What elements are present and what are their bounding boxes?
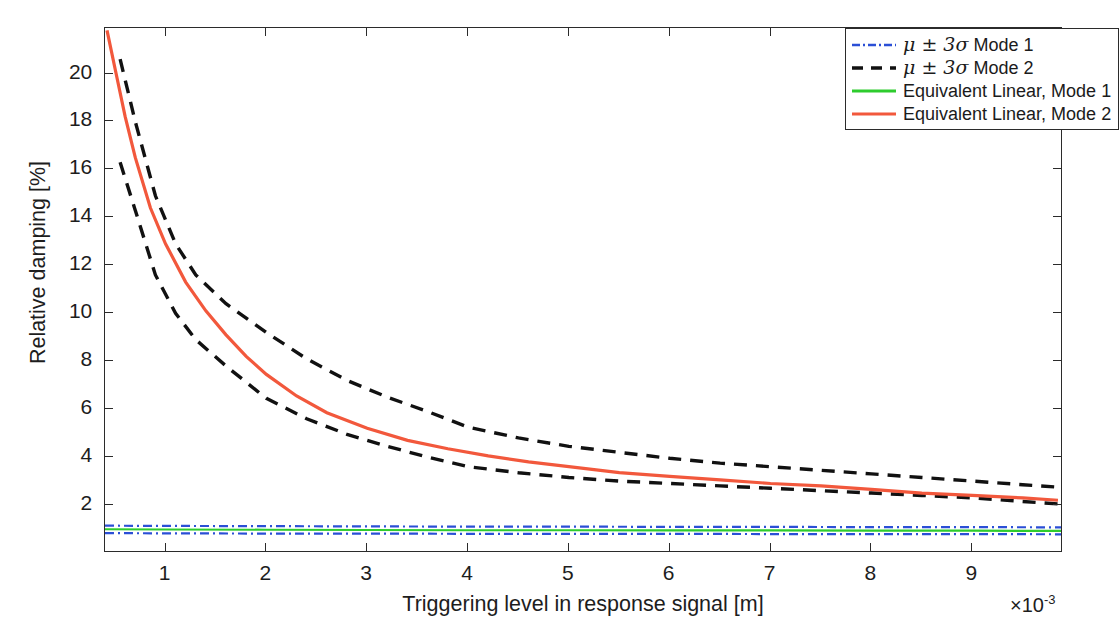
y-axis-tick — [1053, 312, 1062, 313]
x-axis-tick — [669, 543, 670, 552]
x-axis-tick-top — [467, 27, 468, 36]
x-tick-label: 3 — [346, 561, 386, 585]
x-axis-exponent: ×10-3 — [1010, 592, 1056, 617]
y-axis-tick — [1053, 168, 1062, 169]
x-tick-label: 1 — [145, 561, 185, 585]
y-axis-tick — [1053, 216, 1062, 217]
x-tick-label: 7 — [750, 561, 790, 585]
x-axis-tick — [971, 543, 972, 552]
y-axis-tick — [104, 312, 113, 313]
y-axis-tick — [1053, 456, 1062, 457]
legend-item-label: Equivalent Linear, Mode 1 — [903, 81, 1111, 101]
legend-item[interactable]: Equivalent Linear, Mode 1 — [851, 79, 1111, 102]
legend-item-label: Equivalent Linear, Mode 2 — [903, 104, 1111, 124]
x-axis-tick — [870, 543, 871, 552]
legend-item-label: μ ± 3σ Mode 2 — [903, 57, 1033, 78]
x-axis-tick-top — [568, 27, 569, 36]
legend-swatch-icon — [851, 61, 897, 75]
series-line — [105, 533, 1062, 534]
y-axis-tick — [104, 216, 113, 217]
y-axis-tick — [104, 408, 113, 409]
x-axis-tick — [366, 543, 367, 552]
y-axis-tick — [104, 504, 113, 505]
x-tick-label: 6 — [649, 561, 689, 585]
y-axis-tick — [1053, 264, 1062, 265]
legend-item[interactable]: μ ± 3σ Mode 2 — [851, 56, 1111, 79]
y-axis-title: Relative damping [%] — [26, 13, 51, 513]
x-axis-tick-top — [669, 27, 670, 36]
y-axis-tick — [104, 360, 113, 361]
y-axis-tick — [104, 264, 113, 265]
legend-item[interactable]: Equivalent Linear, Mode 2 — [851, 102, 1111, 125]
series-line — [105, 529, 1062, 531]
x-axis-tick — [165, 543, 166, 552]
y-axis-tick — [104, 120, 113, 121]
y-axis-tick — [104, 168, 113, 169]
x-axis-tick — [568, 543, 569, 552]
legend-item-label: μ ± 3σ Mode 1 — [903, 34, 1033, 55]
legend-swatch-icon — [851, 107, 897, 121]
x-axis-title: Triggering level in response signal [m] — [104, 592, 1062, 617]
x-exponent-base: ×10 — [1010, 594, 1044, 616]
legend-item[interactable]: μ ± 3σ Mode 1 — [851, 33, 1111, 56]
y-axis-tick — [1053, 408, 1062, 409]
legend-swatch-icon — [851, 84, 897, 98]
x-axis-tick-top — [265, 27, 266, 36]
x-tick-label: 4 — [447, 561, 487, 585]
series-line — [120, 162, 1058, 504]
chart-legend[interactable]: μ ± 3σ Mode 1μ ± 3σ Mode 2Equivalent Lin… — [845, 28, 1119, 130]
legend-swatch-icon — [851, 38, 897, 52]
x-tick-label: 2 — [245, 561, 285, 585]
x-axis-tick — [467, 543, 468, 552]
y-axis-tick — [1053, 360, 1062, 361]
y-axis-tick — [1053, 504, 1062, 505]
x-axis-tick-top — [165, 27, 166, 36]
x-axis-tick-top — [366, 27, 367, 36]
y-axis-tick — [104, 456, 113, 457]
x-axis-tick-top — [770, 27, 771, 36]
x-exponent-power: -3 — [1044, 592, 1056, 607]
x-axis-tick — [265, 543, 266, 552]
x-tick-label: 8 — [850, 561, 890, 585]
series-line — [105, 526, 1062, 528]
x-tick-label: 9 — [951, 561, 991, 585]
y-axis-tick — [104, 73, 113, 74]
x-axis-tick — [770, 543, 771, 552]
x-tick-label: 5 — [548, 561, 588, 585]
